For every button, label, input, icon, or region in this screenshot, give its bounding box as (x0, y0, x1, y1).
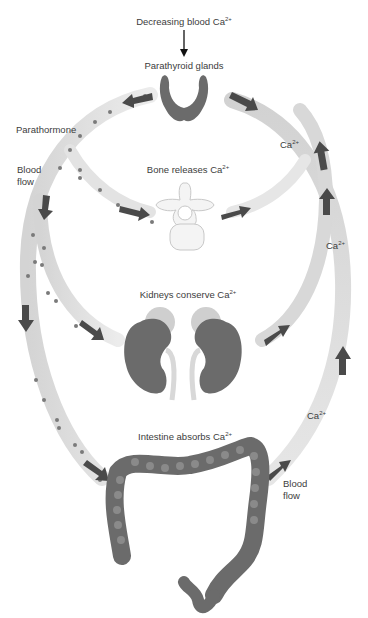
parathyroid-glands-illustration (160, 75, 208, 121)
calcium-return-pathway (232, 100, 343, 478)
calcium-label-upper: Ca2+ (280, 139, 299, 151)
parathormone-label: Parathormone (16, 124, 76, 136)
blood-flow-right-label: Bloodflow (283, 478, 307, 502)
intestine-label: Intestine absorbs Ca2+ (138, 431, 232, 443)
parathormone-pathway (28, 95, 150, 478)
kidneys-label: Kidneys conserve Ca2+ (140, 289, 237, 301)
vertebra-illustration (156, 183, 214, 250)
bone-label: Bone releases Ca2+ (147, 164, 229, 176)
parathyroid-label: Parathyroid glands (144, 60, 223, 72)
calcium-label-lower: Ca2+ (307, 410, 326, 422)
parathormone-dots (26, 94, 154, 482)
calcium-label-middle: Ca2+ (326, 240, 345, 252)
kidneys-illustration (124, 307, 242, 400)
intestine-illustration (113, 446, 260, 607)
trigger-label: Decreasing blood Ca2+ (136, 16, 232, 28)
blood-flow-left-label: Bloodflow (17, 164, 41, 188)
feedback-loop-diagram (0, 0, 368, 618)
trigger-down-arrow (180, 30, 188, 57)
